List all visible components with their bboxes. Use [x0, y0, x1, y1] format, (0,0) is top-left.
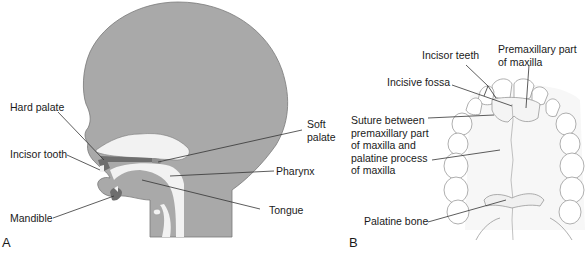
- label-premaxillary-line1: Premaxillary part: [498, 43, 577, 56]
- label-premaxillary-part: Premaxillary part of maxilla: [498, 43, 577, 68]
- label-suture-line5: of maxilla: [351, 164, 429, 177]
- label-palatine-bone: Palatine bone: [364, 215, 428, 228]
- label-suture-line2: premaxillary part: [351, 127, 429, 140]
- label-suture-line4: palatine process: [351, 152, 429, 165]
- label-incisor-tooth: Incisor tooth: [10, 148, 67, 161]
- head-sagittal-section: [83, 2, 287, 237]
- label-mandible: Mandible: [10, 212, 53, 225]
- head-silhouette: [83, 2, 287, 237]
- label-tongue: Tongue: [269, 204, 303, 217]
- label-suture-line3: of maxilla and: [351, 139, 429, 152]
- label-pharynx: Pharynx: [276, 165, 315, 178]
- dental-arch: [444, 79, 585, 240]
- label-soft-palate-line2: palate: [307, 131, 336, 144]
- label-incisor-teeth: Incisor teeth: [422, 49, 479, 62]
- label-suture-line1: Suture between: [351, 114, 429, 127]
- label-suture: Suture between premaxillary part of maxi…: [351, 114, 429, 177]
- label-soft-palate-line1: Soft: [307, 118, 336, 131]
- label-soft-palate: Soft palate: [307, 118, 336, 143]
- anatomy-figure: [0, 0, 585, 256]
- label-hard-palate: Hard palate: [10, 101, 64, 114]
- panel-letter-a: A: [2, 235, 11, 250]
- label-premaxillary-line2: of maxilla: [498, 56, 577, 69]
- panel-letter-b: B: [349, 235, 358, 250]
- label-incisive-fossa: Incisive fossa: [387, 76, 450, 89]
